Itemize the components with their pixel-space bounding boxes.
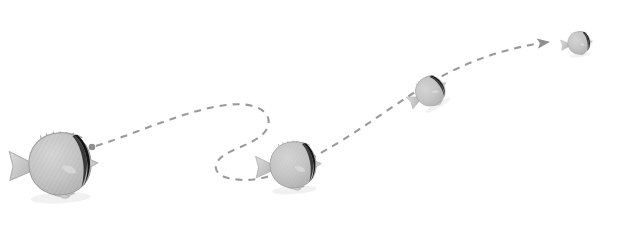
fish-layer xyxy=(0,0,623,229)
fish-instance-4 xyxy=(559,30,594,60)
fish-trajectory-scene xyxy=(0,0,623,229)
fish-instance-3 xyxy=(402,69,455,119)
fish-instance-1 xyxy=(7,130,100,206)
fish-instance-2 xyxy=(254,139,323,196)
